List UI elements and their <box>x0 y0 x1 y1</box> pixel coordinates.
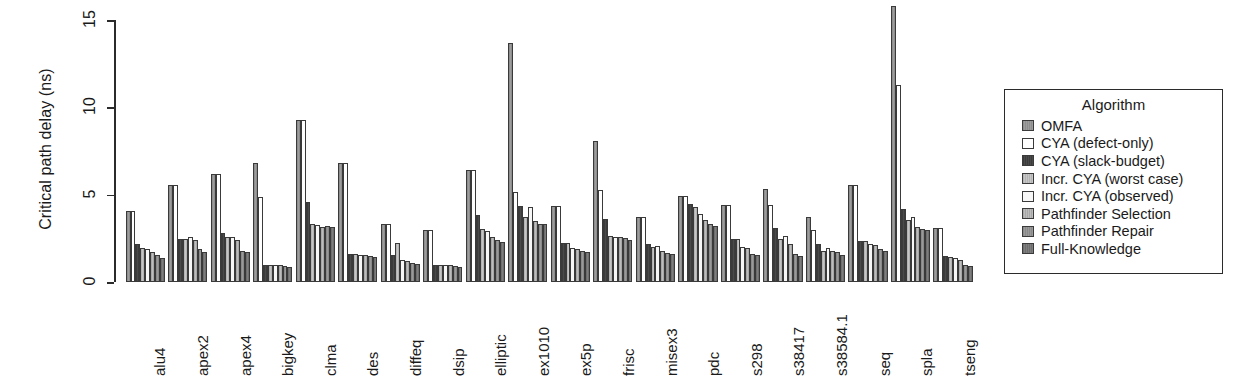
legend-item-label: CYA (slack-budget) <box>1041 153 1165 169</box>
x-axis-label: bigkey <box>279 333 296 376</box>
x-axis-label: s38417 <box>790 327 807 376</box>
bar-group <box>933 0 972 282</box>
legend-item-label: Pathfinder Repair <box>1041 223 1154 239</box>
bar-group <box>678 0 717 282</box>
legend-item: Pathfinder Repair <box>1005 223 1222 241</box>
bar <box>458 267 463 282</box>
bar-groups <box>124 0 976 282</box>
bar-group <box>168 0 207 282</box>
legend-swatch-icon <box>1022 138 1034 149</box>
bar <box>373 257 378 282</box>
legend-item: Incr. CYA (worst case) <box>1005 170 1222 188</box>
x-axis-label: apex2 <box>194 335 211 376</box>
y-axis-tick-label: 5 <box>81 182 99 206</box>
bar-group <box>211 0 250 282</box>
x-axis-label: seq <box>876 352 893 376</box>
y-axis-tick <box>107 20 114 22</box>
x-axis-label: apex4 <box>237 335 254 376</box>
bar-group <box>593 0 632 282</box>
legend-item-label: Pathfinder Selection <box>1041 206 1171 222</box>
bar-group <box>806 0 845 282</box>
plot-area <box>124 0 976 282</box>
legend-swatch-icon <box>1022 243 1034 254</box>
y-axis-tick-label: 15 <box>81 7 99 31</box>
legend-item-label: OMFA <box>1041 118 1082 134</box>
x-axis-label: clma <box>322 344 339 376</box>
legend-item: CYA (defect-only) <box>1005 135 1222 153</box>
legend-title: Algorithm <box>1005 96 1222 113</box>
legend-swatch-icon <box>1022 208 1034 219</box>
y-axis-tick <box>107 107 114 109</box>
x-axis-label: spla <box>918 348 935 376</box>
legend-item-label: Full-Knowledge <box>1041 241 1141 257</box>
x-axis-label: pdc <box>705 352 722 376</box>
bar-group <box>891 0 930 282</box>
bar <box>628 240 633 282</box>
x-axis-label: alu4 <box>151 348 168 376</box>
bar-group <box>848 0 887 282</box>
bar <box>245 252 250 282</box>
legend-item: Pathfinder Selection <box>1005 205 1222 223</box>
bar-group <box>126 0 165 282</box>
legend-item: OMFA <box>1005 117 1222 135</box>
bar-group <box>338 0 377 282</box>
bar <box>415 264 420 282</box>
legend: Algorithm OMFACYA (defect-only)CYA (slac… <box>1004 89 1223 274</box>
legend-swatch-icon <box>1022 120 1034 131</box>
bar <box>543 224 548 282</box>
legend-swatch-icon <box>1022 191 1034 202</box>
bar-group <box>508 0 547 282</box>
bar <box>202 252 207 282</box>
x-axis-label: s298 <box>748 343 765 376</box>
bar <box>883 251 888 282</box>
bar <box>500 242 505 282</box>
legend-item-label: Incr. CYA (worst case) <box>1041 171 1183 187</box>
y-axis-tick-label: 0 <box>81 269 99 293</box>
bar-group <box>763 0 802 282</box>
bar-group <box>636 0 675 282</box>
bar <box>713 226 718 282</box>
x-axis-label: elliptic <box>492 334 509 376</box>
bar <box>160 258 165 282</box>
bar-group <box>721 0 760 282</box>
bar <box>585 252 590 282</box>
bar-group <box>466 0 505 282</box>
x-axis-category-labels: alu4apex2apex4bigkeyclmadesdiffeqdsipell… <box>124 286 976 380</box>
x-axis-label: diffeq <box>407 340 424 376</box>
y-axis-tick <box>107 282 114 284</box>
legend-swatch-icon <box>1022 155 1034 166</box>
legend-item-label: CYA (defect-only) <box>1041 135 1154 151</box>
legend-swatch-icon <box>1022 173 1034 184</box>
bar <box>798 256 803 282</box>
legend-item: Full-Knowledge <box>1005 240 1222 258</box>
bar <box>840 255 845 282</box>
bar <box>670 254 675 282</box>
y-axis-line <box>114 20 116 282</box>
x-axis-label: des <box>364 352 381 376</box>
bar <box>330 227 335 282</box>
legend-item: Incr. CYA (observed) <box>1005 187 1222 205</box>
legend-item-label: Incr. CYA (observed) <box>1041 188 1174 204</box>
bar <box>925 230 930 282</box>
x-axis-label: dsip <box>450 348 467 376</box>
bar <box>968 266 973 282</box>
bar-group <box>381 0 420 282</box>
bar <box>755 255 760 282</box>
bar <box>287 267 292 282</box>
y-axis-tick <box>107 195 114 197</box>
x-axis-label: ex5p <box>577 343 594 376</box>
x-axis-label: tseng <box>961 339 978 376</box>
x-axis-label: misex3 <box>663 328 680 376</box>
x-axis-label: frisc <box>620 349 637 377</box>
bar-group <box>253 0 292 282</box>
x-axis-label: ex1010 <box>535 327 552 376</box>
legend-swatch-icon <box>1022 226 1034 237</box>
x-axis-label: s38584.1 <box>833 314 850 376</box>
y-axis-title: Critical path delay (ns) <box>37 19 55 279</box>
legend-rows: OMFACYA (defect-only)CYA (slack-budget)I… <box>1005 117 1222 258</box>
legend-item: CYA (slack-budget) <box>1005 152 1222 170</box>
bar-group <box>296 0 335 282</box>
bar-group <box>423 0 462 282</box>
bar-group <box>551 0 590 282</box>
y-axis-tick-label: 10 <box>81 94 99 118</box>
